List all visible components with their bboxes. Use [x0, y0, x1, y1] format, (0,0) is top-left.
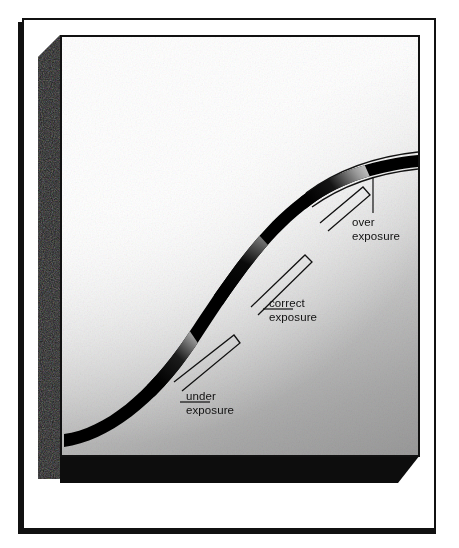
slab-bottom-face — [60, 455, 420, 483]
label-correct-exposure-line2: exposure — [269, 311, 317, 325]
label-over-exposure-line1: over — [352, 216, 400, 230]
characteristic-curve-layer — [62, 37, 418, 455]
label-under-exposure: under exposure — [186, 390, 234, 417]
label-correct-exposure: correct exposure — [269, 297, 317, 324]
label-over-exposure: over exposure — [352, 216, 400, 243]
figure-root: over exposure correct exposure under exp… — [0, 0, 459, 548]
page-frame-bottom-shadow — [22, 530, 436, 534]
graph-panel — [60, 35, 420, 457]
diagram-slab — [38, 35, 420, 503]
label-under-exposure-line1: under — [186, 390, 234, 404]
curve-band — [62, 37, 418, 455]
label-under-exposure-line2: exposure — [186, 404, 234, 418]
label-correct-exposure-line1: correct — [269, 297, 317, 311]
slab-left-face-texture — [38, 35, 60, 479]
label-over-exposure-line2: exposure — [352, 230, 400, 244]
slab-left-face — [38, 35, 60, 479]
